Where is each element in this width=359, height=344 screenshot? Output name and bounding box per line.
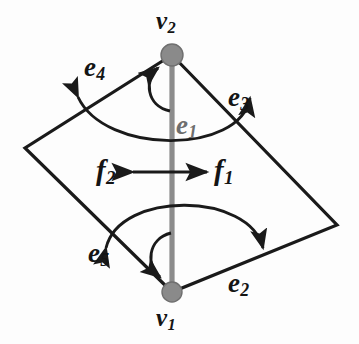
vertex-label-v1-base: v xyxy=(156,304,167,331)
vertex-label-v2-base: v xyxy=(156,7,167,34)
edge-label-e3: e3 xyxy=(228,84,249,111)
vertex-label-v1-sub: 1 xyxy=(167,315,175,334)
vertex-v2-dot xyxy=(161,44,183,66)
edge-label-e2-base: e xyxy=(228,268,240,298)
vertex-label-v2-sub: 2 xyxy=(167,18,175,37)
graph-diagram-figure: v2 v1 e1 e2 e3 e4 e5 f1 f2 xyxy=(0,0,359,344)
vertex-v1-dot xyxy=(162,282,182,302)
edge-label-e1-base: e xyxy=(176,110,188,140)
edge-label-e2-sub: 2 xyxy=(240,280,249,300)
edge-label-e5-sub: 5 xyxy=(100,250,109,270)
face-label-f1: f1 xyxy=(214,156,233,185)
face-label-f1-sub: 1 xyxy=(224,167,234,188)
edge-label-e4-sub: 4 xyxy=(96,64,105,84)
edge-label-e1-sub: 1 xyxy=(188,122,197,142)
rotation-arc-upper xyxy=(78,97,250,141)
vertex-label-v1: v1 xyxy=(156,305,175,330)
rotation-arc-v1 xyxy=(151,233,171,277)
vertex-label-v2: v2 xyxy=(156,8,175,33)
edge-label-e4: e4 xyxy=(84,54,105,81)
rotation-arc-lower xyxy=(106,205,263,248)
edge-label-e5: e5 xyxy=(88,240,109,267)
face-label-f1-base: f xyxy=(214,154,224,186)
edge-label-e3-sub: 3 xyxy=(240,94,249,114)
diagram-canvas xyxy=(0,0,359,344)
edge-label-e2: e2 xyxy=(228,270,249,297)
edge-label-e5-base: e xyxy=(88,238,100,268)
rotation-arc-v2 xyxy=(149,68,170,111)
edge-label-e1: e1 xyxy=(176,112,197,139)
face-label-f2-base: f xyxy=(96,154,106,186)
edge-label-e3-base: e xyxy=(228,82,240,112)
edge-label-e4-base: e xyxy=(84,52,96,82)
face-label-f2: f2 xyxy=(96,156,115,185)
face-label-f2-sub: 2 xyxy=(106,167,116,188)
